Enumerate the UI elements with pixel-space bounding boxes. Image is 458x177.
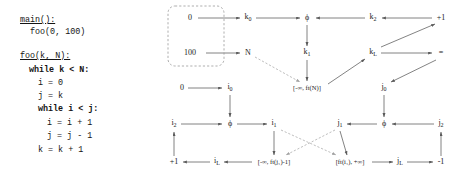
node-const-100: 100 bbox=[184, 49, 196, 57]
node-k0: k0 bbox=[245, 13, 252, 23]
code-line-assign-jk: j = k bbox=[38, 92, 63, 101]
node-N: N bbox=[245, 49, 251, 57]
node-i1: i1 bbox=[271, 119, 276, 129]
code-line-assign-i-inc: i = i + 1 bbox=[47, 119, 92, 128]
figure-root: main(): foo(0, 100) foo(k, N): while k <… bbox=[0, 0, 458, 177]
code-line-assign-k-inc: k = k + 1 bbox=[38, 146, 83, 155]
node-k2: k2 bbox=[370, 13, 377, 23]
node-const-0-b: 0 bbox=[180, 84, 184, 92]
node-j2: j2 bbox=[438, 119, 443, 129]
node-jL: jL bbox=[397, 157, 403, 167]
code-line-assign-j-dec: j = j - 1 bbox=[47, 132, 92, 141]
code-line-foo-signature: foo(k, N): bbox=[20, 52, 70, 61]
node-plus-one-k: +1 bbox=[437, 14, 446, 22]
node-j1: j1 bbox=[337, 119, 342, 129]
node-j0: j0 bbox=[381, 83, 386, 93]
node-i2: i2 bbox=[171, 119, 176, 129]
node-interval-j1: [-∞, ft(j₁)-1] bbox=[258, 158, 291, 166]
code-line-main-signature: main(): bbox=[20, 16, 55, 25]
code-line-main-call: foo(0, 100) bbox=[30, 28, 85, 37]
node-interval-N: [-∞, ft(N)] bbox=[293, 84, 321, 92]
node-k1: k1 bbox=[304, 48, 311, 58]
node-iL: iL bbox=[214, 157, 220, 167]
node-equals: = bbox=[439, 49, 444, 57]
node-plus-one-i: +1 bbox=[170, 158, 179, 166]
node-kL: kL bbox=[369, 48, 377, 58]
code-line-assign-i0: i = 0 bbox=[38, 79, 63, 88]
node-minus-one: -1 bbox=[438, 158, 445, 166]
code-line-while-inner: while i < j: bbox=[38, 105, 98, 114]
ssa-dependency-graph: 0 k0 ϕ k2 +1 100 N k1 kL = 0 i0 [-∞, ft(… bbox=[160, 0, 458, 177]
node-phi-i: ϕ bbox=[228, 120, 232, 128]
entry-arguments-box bbox=[168, 6, 224, 66]
node-phi-j: ϕ bbox=[382, 120, 386, 128]
node-const-0: 0 bbox=[188, 14, 192, 22]
node-interval-i1: [ft(i₁), +∞] bbox=[336, 158, 365, 166]
node-i0: i0 bbox=[227, 83, 232, 93]
node-phi-k: ϕ bbox=[305, 14, 309, 22]
code-listing: main(): foo(0, 100) foo(k, N): while k <… bbox=[0, 0, 160, 177]
code-line-while-outer: while k < N: bbox=[29, 66, 89, 75]
